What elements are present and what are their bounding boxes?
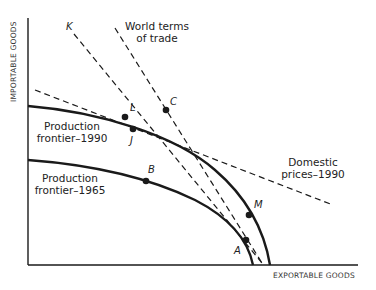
domestic-prices-label-line1: Domestic — [278, 156, 348, 168]
k-label: K — [66, 21, 73, 33]
point-A-label: A — [234, 245, 241, 257]
frontier-1990-label-line2: frontier–1990 — [32, 132, 112, 144]
frontier-1965-label-line1: Production — [30, 172, 110, 184]
frontier-1990-label: Production frontier–1990 — [32, 120, 112, 144]
point-M-label: M — [254, 199, 263, 211]
point-J — [130, 126, 137, 133]
frontier-1965-label: Production frontier–1965 — [30, 172, 110, 196]
frontier-1965-label-line2: frontier–1965 — [30, 184, 110, 196]
y-axis-label: IMPORTABLE GOODS — [8, 21, 20, 102]
world-terms-of-trade-line — [115, 28, 262, 263]
domestic-prices-label-line2: prices–1990 — [278, 168, 348, 180]
point-C-label: C — [170, 96, 177, 108]
point-J-label: J — [130, 135, 133, 147]
world-terms-label: World terms of trade — [120, 20, 194, 44]
point-M — [246, 212, 253, 219]
world-terms-label-line1: World terms — [120, 20, 194, 32]
domestic-prices-label: Domestic prices–1990 — [278, 156, 348, 180]
point-B-label: B — [148, 164, 155, 176]
frontier-1990-label-line1: Production — [32, 120, 112, 132]
point-B — [143, 178, 150, 185]
point-C — [163, 107, 170, 114]
k-line — [74, 34, 262, 263]
point-A — [243, 237, 250, 244]
point-L — [122, 114, 129, 121]
point-L-label: L — [130, 102, 136, 114]
world-terms-label-line2: of trade — [120, 32, 194, 44]
x-axis-label: EXPORTABLE GOODS — [273, 270, 355, 282]
